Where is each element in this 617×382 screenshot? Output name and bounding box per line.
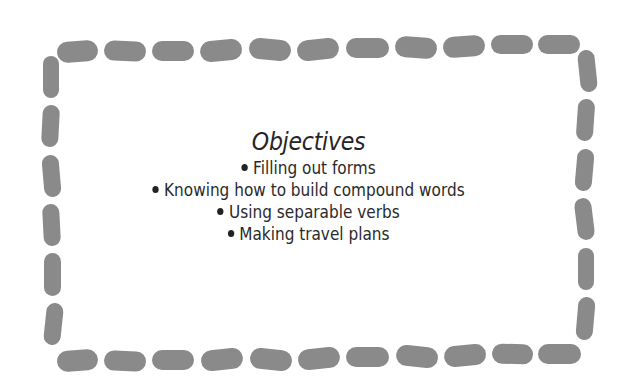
border-dash-top [394, 36, 437, 60]
bullet-icon [217, 208, 223, 215]
border-dash-top [538, 35, 580, 54]
border-dash-bottom [56, 349, 98, 373]
border-dash-top [56, 40, 98, 64]
objectives-heading: Objectives [25, 127, 593, 157]
border-dash-left [43, 56, 59, 98]
objectives-list: Filling out forms Knowing how to build c… [0, 157, 617, 245]
border-dash-top [346, 38, 389, 58]
bullet-icon [152, 186, 158, 193]
border-dash-bottom [395, 344, 439, 369]
border-dash-left [43, 302, 64, 346]
bullet-icon [228, 230, 234, 237]
objective-item: Using separable verbs [31, 201, 586, 223]
objective-item: Making travel plans [31, 223, 586, 245]
bullet-icon [241, 164, 247, 171]
border-dash-bottom [538, 344, 581, 364]
border-dash-left [44, 253, 61, 296]
border-dash-top [491, 35, 533, 54]
border-dash-right [578, 248, 594, 290]
border-dash-bottom [297, 346, 341, 371]
objective-item: Knowing how to build compound words [31, 179, 586, 201]
border-dash-top [152, 41, 194, 61]
objective-text: Knowing how to build compound words [164, 180, 465, 200]
objective-item: Filling out forms [31, 157, 586, 179]
border-dash-bottom [249, 347, 293, 372]
border-dash-bottom [104, 350, 147, 371]
border-dash-bottom [346, 347, 389, 367]
border-dash-bottom [492, 343, 534, 364]
border-dash-bottom [152, 350, 194, 370]
border-dash-bottom [443, 343, 487, 368]
border-dash-bottom [200, 347, 244, 372]
objectives-box: Objectives Filling out forms Knowing how… [0, 127, 617, 245]
border-dash-top [442, 35, 485, 59]
border-dash-right [575, 296, 596, 340]
border-dash-right [577, 49, 598, 93]
border-dash-top [248, 37, 292, 62]
border-dash-top [199, 38, 243, 63]
border-dash-top [296, 37, 340, 62]
objective-text: Filling out forms [253, 158, 376, 178]
objective-text: Using separable verbs [229, 202, 400, 222]
border-dash-top [104, 40, 147, 61]
objective-text: Making travel plans [239, 224, 389, 244]
